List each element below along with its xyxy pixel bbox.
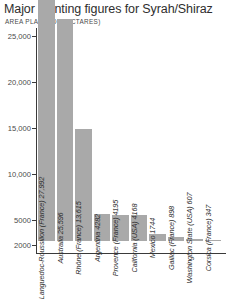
bar[interactable] bbox=[205, 240, 222, 241]
bar-label: Corsica (France) 347 bbox=[204, 205, 213, 272]
y-axis-tick-labels: 25,00020,00015,00010,00050002000 bbox=[0, 28, 31, 254]
bar[interactable] bbox=[75, 129, 92, 241]
y-axis-tick-label: 15,000 bbox=[8, 124, 31, 133]
bar-series: Languedoc-Roussillon (France) 27,992Aust… bbox=[37, 0, 231, 253]
y-axis-tick-label: 25,000 bbox=[8, 32, 31, 41]
x-axis-line bbox=[36, 253, 226, 254]
y-axis-tick-label: 2000 bbox=[14, 241, 31, 250]
bar[interactable] bbox=[112, 215, 129, 241]
y-axis-tick-label: 10,000 bbox=[8, 170, 31, 179]
bar[interactable] bbox=[57, 19, 74, 241]
bar[interactable] bbox=[131, 215, 148, 241]
bar[interactable] bbox=[149, 234, 166, 241]
bar[interactable] bbox=[94, 214, 111, 241]
y-axis-tick-label: 20,000 bbox=[8, 78, 31, 87]
bar[interactable] bbox=[38, 0, 55, 241]
bar[interactable] bbox=[186, 239, 203, 241]
y-axis-tick-label: 5000 bbox=[14, 216, 31, 225]
bar[interactable] bbox=[168, 237, 185, 241]
